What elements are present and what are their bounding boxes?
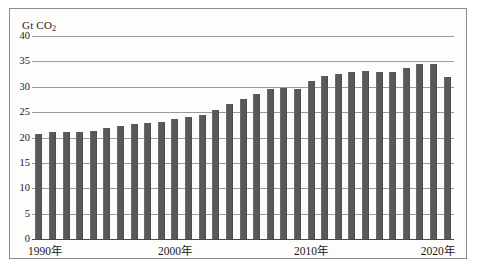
bar xyxy=(389,72,396,239)
bar xyxy=(158,122,165,239)
bar xyxy=(280,88,287,239)
plot-area xyxy=(32,36,454,239)
bar xyxy=(144,123,151,239)
bar xyxy=(199,115,206,239)
bar xyxy=(63,132,70,239)
y-axis-tick-label: 5 xyxy=(12,209,30,219)
bar xyxy=(131,124,138,239)
bar xyxy=(403,68,410,239)
y-axis-tick-label: 30 xyxy=(12,82,30,92)
axis-baseline xyxy=(32,239,454,240)
bar xyxy=(321,76,328,239)
x-axis-tick-label: 2010年 xyxy=(294,242,328,258)
bar xyxy=(253,94,260,239)
chart-figure: Gt CO2 0510152025303540 1990年2000年2010年2… xyxy=(9,8,467,259)
bar xyxy=(416,64,423,239)
bar-series xyxy=(32,36,454,239)
x-axis-tick-label: 1990年 xyxy=(28,242,62,258)
bar xyxy=(348,72,355,239)
x-axis-tick-labels: 1990年2000年2010年2020年 xyxy=(32,242,454,262)
x-axis-tick-label: 2000年 xyxy=(158,242,192,258)
x-axis-tick-label: 2020年 xyxy=(421,242,455,258)
bar xyxy=(335,74,342,239)
y-axis-tick-labels: 0510152025303540 xyxy=(10,36,30,239)
y-axis-tick-label: 10 xyxy=(12,183,30,193)
bar xyxy=(226,104,233,239)
bar xyxy=(103,128,110,239)
bar xyxy=(185,117,192,239)
bar xyxy=(362,71,369,239)
bar xyxy=(308,81,315,239)
plot-wrapper: 0510152025303540 1990年2000年2010年2020年 xyxy=(10,9,468,260)
bar xyxy=(117,126,124,239)
y-axis-tick-label: 40 xyxy=(12,31,30,41)
bar xyxy=(444,77,451,239)
bar xyxy=(49,132,56,239)
y-axis-tick-label: 25 xyxy=(12,107,30,117)
bar xyxy=(90,131,97,239)
bar xyxy=(376,72,383,239)
y-axis-tick-label: 15 xyxy=(12,158,30,168)
bar xyxy=(171,119,178,239)
bar xyxy=(35,134,42,239)
bar xyxy=(76,132,83,239)
bar xyxy=(294,89,301,239)
bar xyxy=(240,99,247,239)
bar xyxy=(212,110,219,239)
bar xyxy=(430,64,437,239)
y-axis-tick-label: 20 xyxy=(12,133,30,143)
y-axis-tick-label: 35 xyxy=(12,56,30,66)
bar xyxy=(267,89,274,239)
